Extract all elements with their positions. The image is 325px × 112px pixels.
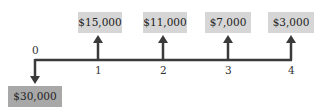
period-label-3: 3 [225,64,232,76]
outflow-box-period-0: $30,000 [8,86,62,107]
inflow-box-period-4: $3,000 [268,12,314,33]
period-label-1: 1 [95,64,102,76]
period-label-2: 2 [160,64,167,76]
cash-flow-diagram: $15,000 $11,000 $7,000 $3,000 $30,000 0 … [0,0,325,112]
inflow-box-period-2: $11,000 [143,12,187,33]
period-label-0: 0 [32,44,39,56]
period-label-4: 4 [288,64,295,76]
inflow-box-period-3: $7,000 [205,12,251,33]
inflow-box-period-1: $15,000 [78,12,122,33]
